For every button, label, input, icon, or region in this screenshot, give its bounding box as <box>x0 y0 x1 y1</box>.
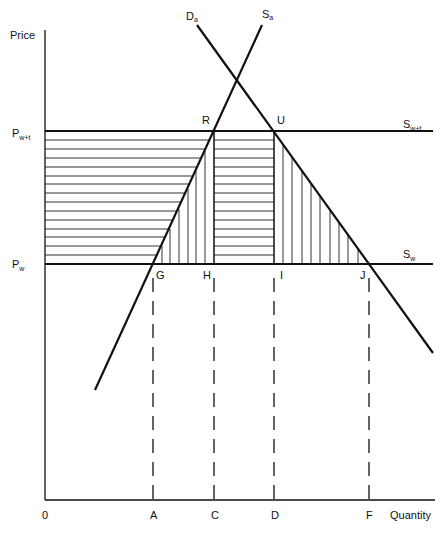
x-axis-label: Quantity <box>390 509 431 521</box>
x-tick-F: F <box>366 509 373 521</box>
x-tick-C: C <box>211 509 219 521</box>
point-label-J: J <box>360 269 366 281</box>
world-supply-label: Sw <box>403 248 416 262</box>
point-label-R: R <box>202 114 210 126</box>
y-axis-label: Price <box>10 29 35 41</box>
horizontal-hatch-left <box>45 140 210 255</box>
demand-curve <box>197 25 433 353</box>
point-label-U: U <box>277 114 285 126</box>
supply-curve-label: Sa <box>262 8 273 21</box>
price-label-pw: Pw <box>12 258 25 272</box>
price-label-pwt: Pw+t <box>12 127 30 141</box>
tariff-diagram: Price Quantity 0 A C D F Pw+t Pw Da Sa S… <box>0 0 443 534</box>
demand-curve-label: Da <box>186 10 198 23</box>
horizontal-hatch-middle <box>214 140 274 255</box>
world-supply-tariff-label: Sw+t <box>403 118 421 132</box>
vertical-hatch-left-triangle <box>162 151 205 264</box>
dashed-drop-lines <box>153 278 369 500</box>
x-tick-D: D <box>271 509 279 521</box>
point-label-H: H <box>203 269 211 281</box>
origin-label: 0 <box>42 509 48 521</box>
point-label-I: I <box>280 269 283 281</box>
x-tick-A: A <box>150 509 158 521</box>
point-label-G: G <box>156 269 165 281</box>
